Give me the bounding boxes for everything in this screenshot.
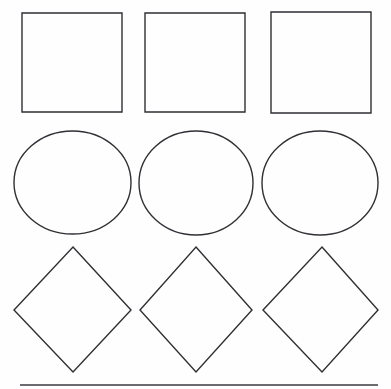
shapes-canvas-root: [0, 0, 391, 389]
shape-diamond-2[interactable]: [140, 247, 252, 372]
shape-diamond-1[interactable]: [14, 247, 131, 372]
shape-row-diamonds: [14, 247, 378, 372]
shape-circle-3[interactable]: [262, 131, 378, 235]
shape-square-2[interactable]: [145, 13, 245, 112]
shape-square-3[interactable]: [271, 12, 371, 113]
shapes-canvas: [0, 0, 391, 389]
shape-row-squares: [22, 12, 371, 113]
shape-square-1[interactable]: [22, 13, 122, 112]
shape-row-circles: [14, 131, 378, 235]
shape-circle-2[interactable]: [139, 131, 253, 235]
shape-diamond-3[interactable]: [263, 247, 378, 372]
shape-circle-1[interactable]: [14, 131, 131, 234]
